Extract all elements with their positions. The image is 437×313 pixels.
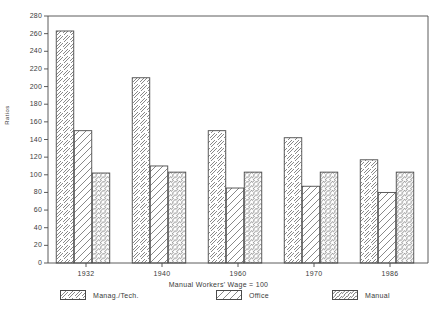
y-tick-label: 260	[6, 30, 42, 37]
y-tick-label: 0	[6, 259, 42, 266]
x-tick-label: 1940	[137, 270, 187, 277]
y-tick-label: 120	[6, 153, 42, 160]
plot-area	[0, 0, 437, 290]
y-tick-label: 200	[6, 83, 42, 90]
y-tick-label: 60	[6, 206, 42, 213]
legend-label-manag-tech: Manag./Tech.	[93, 292, 139, 299]
legend-item-manag-tech: Manag./Tech.	[60, 290, 139, 300]
y-tick-label: 140	[6, 136, 42, 143]
x-axis-label: Manual Workers' Wage = 100	[0, 281, 437, 288]
legend-swatch-office	[216, 290, 242, 300]
x-tick-label: 1932	[61, 270, 111, 277]
y-tick-label: 100	[6, 171, 42, 178]
legend-item-office: Office	[216, 290, 269, 300]
y-tick-label: 180	[6, 100, 42, 107]
x-tick-label: 1970	[289, 270, 339, 277]
legend-item-manual: Manual	[332, 290, 390, 300]
y-tick-label: 80	[6, 188, 42, 195]
y-tick-label: 160	[6, 118, 42, 125]
bar-chart: Ratios 020406080100120140160180200220240…	[0, 0, 437, 313]
legend-label-office: Office	[249, 292, 269, 299]
y-tick-label: 40	[6, 224, 42, 231]
legend-swatch-manag-tech	[60, 290, 86, 300]
y-tick-label: 220	[6, 65, 42, 72]
x-tick-label: 1960	[213, 270, 263, 277]
y-tick-label: 280	[6, 12, 42, 19]
chart-legend: Manag./Tech. Office Manual	[0, 290, 437, 308]
y-tick-label: 240	[6, 47, 42, 54]
x-tick-label: 1986	[365, 270, 415, 277]
legend-label-manual: Manual	[365, 292, 390, 299]
legend-swatch-manual	[332, 290, 358, 300]
y-tick-label: 20	[6, 241, 42, 248]
